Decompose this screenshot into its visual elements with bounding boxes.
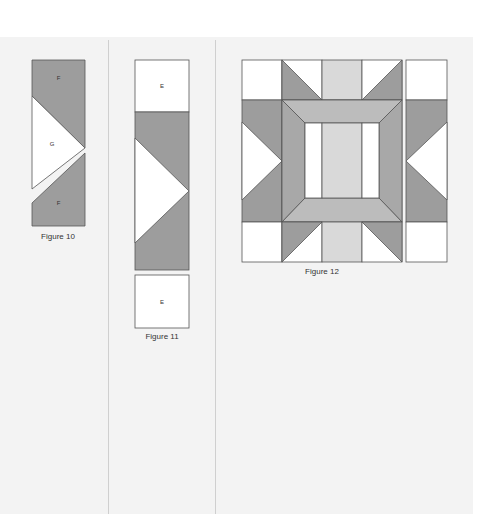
fig12-corner-top-left: [242, 60, 282, 100]
figure-10-label-g: G: [50, 141, 55, 147]
figure-10-label-f-bottom: F: [57, 200, 61, 206]
figure-11-label-e-top: E: [160, 83, 164, 89]
fig12-center-strip-middle: [322, 123, 362, 198]
fig12-strip-top-square: [406, 60, 447, 100]
figure-11-diagram: [135, 60, 189, 328]
figure-10-label-f-top: F: [57, 75, 61, 81]
figure-11-label-e-bottom: E: [160, 299, 164, 305]
quilt-diagrams: F G F E E: [0, 0, 480, 514]
figure-10-caption: Figure 10: [41, 232, 75, 241]
figure-11-caption: Figure 11: [145, 332, 178, 341]
fig12-corner-bottom-left: [242, 222, 282, 262]
fig12-inner-window-right: [362, 123, 379, 198]
fig12-center-strip-top: [322, 60, 362, 100]
fig12-strip-bottom-square: [406, 222, 447, 262]
figure-12-diagram: [242, 60, 447, 262]
fig12-inner-window-left: [305, 123, 322, 198]
fig12-center-strip-bottom: [322, 222, 362, 262]
figure-12-caption: Figure 12: [305, 267, 339, 276]
